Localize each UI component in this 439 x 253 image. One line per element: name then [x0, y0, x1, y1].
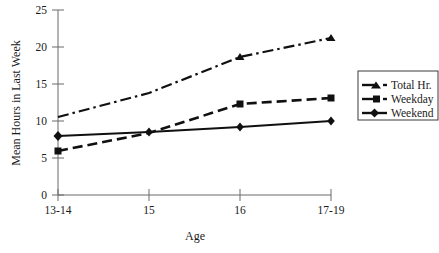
marker-square-weekday-17-19	[328, 95, 335, 102]
x-tick-label-13-14: 13-14	[45, 204, 72, 216]
chart-canvas: 25 20 15 10 5 0 13-14 15 16 17-19 Age Me…	[0, 0, 439, 253]
x-tick-label-16: 16	[234, 204, 246, 216]
series-total-hr	[58, 34, 336, 117]
y-tick-label-25: 25	[36, 4, 48, 16]
line-chart: 25 20 15 10 5 0 13-14 15 16 17-19 Age Me…	[0, 0, 439, 253]
y-tick-label-15: 15	[36, 78, 48, 90]
x-axis-title: Age	[185, 229, 205, 243]
chart-legend: Total Hr. Weekday Weekend	[358, 71, 438, 120]
legend-label-total-hr: Total Hr.	[391, 79, 432, 91]
y-axis-tick-labels: 25 20 15 10 5 0	[36, 4, 48, 201]
y-tick-label-0: 0	[41, 189, 47, 201]
marker-diamond-weekend-17-19	[327, 117, 335, 126]
legend-label-weekday: Weekday	[391, 93, 434, 106]
x-tick-label-15: 15	[143, 204, 155, 216]
y-tick-label-5: 5	[41, 152, 47, 164]
y-tick-label-20: 20	[36, 41, 48, 53]
legend-label-weekend: Weekend	[391, 107, 434, 119]
series-line-weekend	[58, 121, 331, 136]
legend-marker-square-icon	[373, 96, 380, 103]
marker-square-weekday-13-14	[55, 148, 62, 155]
y-tick-label-10: 10	[36, 115, 48, 127]
x-axis-tick-labels: 13-14 15 16 17-19	[45, 204, 345, 216]
marker-diamond-weekend-13-14	[54, 131, 63, 141]
series-line-total-hr	[58, 38, 331, 117]
marker-diamond-weekend-16	[236, 123, 244, 132]
marker-triangle-total-hr-17-19	[327, 34, 336, 41]
y-axis-title: Mean Hours in Last Week	[9, 40, 23, 165]
marker-diamond-weekend-15	[145, 128, 153, 137]
x-tick-label-17-19: 17-19	[318, 204, 345, 216]
marker-square-weekday-16	[237, 101, 244, 108]
series-weekend	[54, 117, 335, 142]
